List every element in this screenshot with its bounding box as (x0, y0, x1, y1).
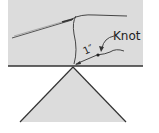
support-triangle (20, 67, 126, 122)
knot-label: Knot (113, 29, 141, 43)
diagram-canvas (0, 0, 159, 133)
